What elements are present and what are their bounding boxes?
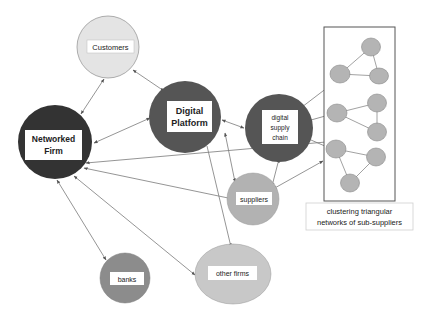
sub-supplier-node xyxy=(362,38,381,56)
sub-supplier-node xyxy=(367,148,386,166)
edge-firm-banks xyxy=(57,180,106,260)
node-digital-platform[interactable]: Digital Platform xyxy=(149,81,221,153)
sub-supplier-node xyxy=(330,65,350,83)
banks-label: banks xyxy=(118,276,137,283)
node-networked-firm[interactable]: Networked Firm xyxy=(18,105,92,179)
network-diagram: clustering triangular networks of sub-su… xyxy=(0,0,430,320)
sub-supplier-node xyxy=(327,104,347,122)
node-other-firms[interactable]: other firms xyxy=(195,244,271,304)
networked-firm-line2: Firm xyxy=(44,146,63,156)
edge-firm-suppliers xyxy=(84,168,233,199)
supply-chain-line1: digital xyxy=(272,114,290,122)
other-firms-label: other firms xyxy=(216,270,250,277)
sub-supplier-node xyxy=(326,140,346,158)
node-customers[interactable]: Customers xyxy=(77,16,139,78)
edge-platform-suppliers xyxy=(225,133,235,182)
node-digital-supply-chain[interactable]: digital supply chain xyxy=(245,94,313,162)
digital-platform-line2: Platform xyxy=(171,118,208,128)
suppliers-label: suppliers xyxy=(240,196,269,204)
sub-supplier-node xyxy=(368,94,387,112)
networked-firm-line1: Networked xyxy=(32,134,75,144)
edge-suppliers-cluster xyxy=(273,161,323,189)
cluster-caption-line2: networks of sub-suppliers xyxy=(317,218,402,227)
edge-customers-platform xyxy=(133,70,164,91)
digital-platform-line1: Digital xyxy=(176,106,204,116)
sub-supplier-node xyxy=(368,123,387,141)
edge-firm-platform xyxy=(94,118,150,143)
sub-supplier-node xyxy=(341,174,360,192)
supply-chain-line3: chain xyxy=(272,134,288,141)
customers-label: Customers xyxy=(92,43,129,52)
edge-supplychain-suppliers xyxy=(272,159,279,186)
cluster-caption-line1: clustering triangular xyxy=(327,207,393,216)
edge-firm-customers xyxy=(81,79,104,114)
node-banks[interactable]: banks xyxy=(100,253,150,303)
node-suppliers[interactable]: suppliers xyxy=(227,173,279,225)
supply-chain-line2: supply xyxy=(271,124,291,132)
edge-platform-supplychain xyxy=(222,120,244,128)
sub-supplier-node xyxy=(370,68,389,84)
